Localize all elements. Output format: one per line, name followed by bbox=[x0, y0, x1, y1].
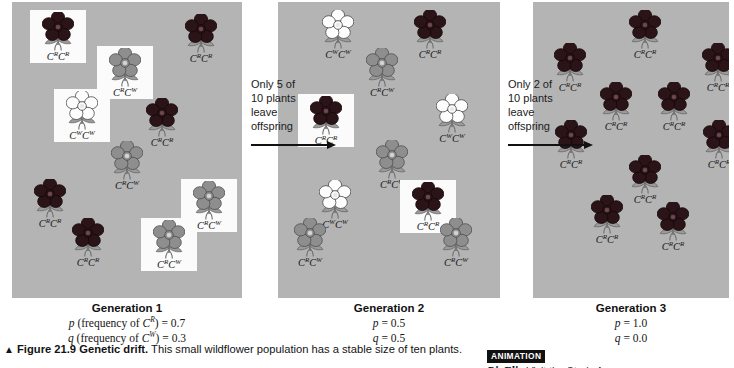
generation-3-title: Generation 3 bbox=[501, 301, 734, 316]
generation-1-freq-p: p (frequency of CR) = 0.7 bbox=[0, 316, 257, 331]
flower-icon-white bbox=[55, 91, 109, 131]
generation-2-title: Generation 2 bbox=[259, 301, 519, 316]
flower-icon-white bbox=[307, 180, 363, 220]
panel-generation-1: CRCRCRCRCRCWCWCWCRCRCRCWCRCRCRCWCRCRCRCW bbox=[12, 2, 242, 298]
flower-icon-dark-red bbox=[617, 10, 673, 50]
arrow-gen2-gen3: Only 2 of 10 plants leave offspring bbox=[508, 78, 600, 149]
flower-icon-dark-red bbox=[31, 12, 85, 52]
animation-badge[interactable]: ANIMATION bbox=[487, 350, 545, 363]
genotype-label: CRCW bbox=[142, 259, 196, 270]
plant-generation-2-10: CRCW bbox=[428, 218, 484, 268]
caption-generation-3: Generation 3 p = 1.0 q = 0.0 bbox=[501, 301, 734, 346]
flower-icon-pink bbox=[142, 220, 196, 260]
caption-triangle-icon: ▲ bbox=[4, 344, 14, 355]
genotype-label: CRCR bbox=[645, 241, 701, 252]
flower-icon-dark-red bbox=[690, 43, 729, 83]
generation-3-freq-p: p = 1.0 bbox=[501, 316, 734, 331]
flower-icon-dark-red bbox=[401, 182, 455, 222]
plant-generation-2-3: CRCW bbox=[354, 48, 410, 98]
flower-icon-dark-red bbox=[646, 82, 702, 122]
generation-2-freq-p: p = 0.5 bbox=[259, 316, 519, 331]
genotype-label: CRCR bbox=[691, 159, 729, 170]
flower-icon-dark-red bbox=[617, 155, 673, 195]
plant-generation-2-9: CRCW bbox=[282, 218, 338, 268]
generation-3-freq-q: q = 0.0 bbox=[501, 331, 734, 346]
figure-caption: ▲ Figure 21.9 Genetic drift. This small … bbox=[4, 342, 474, 357]
flower-icon-dark-red bbox=[691, 120, 729, 160]
flower-icon-dark-red bbox=[134, 98, 190, 138]
plant-generation-3-7: CRCR bbox=[691, 120, 729, 170]
flower-icon-pink bbox=[428, 218, 484, 258]
flower-icon-white bbox=[424, 94, 480, 134]
flower-icon-dark-red bbox=[22, 179, 78, 219]
panel-generation-3: CRCRCRCRCRCRCRCRCRCRCRCRCRCRCRCRCRCRCRCR bbox=[533, 2, 729, 298]
genotype-label: CRCW bbox=[354, 87, 410, 98]
plant-generation-1-1: CRCR bbox=[30, 10, 86, 63]
figure-genetic-drift: CRCRCRCRCRCWCWCWCRCRCRCWCRCRCRCWCRCRCRCW… bbox=[0, 0, 734, 368]
panel-generation-2: CWCWCRCRCRCWCRCRCWCWCRCWCWCWCRCRCRCWCRCW bbox=[278, 2, 500, 298]
genotype-label: CRCR bbox=[579, 234, 635, 245]
genotype-label: CWCW bbox=[55, 130, 109, 141]
flower-icon-pink bbox=[99, 141, 155, 181]
flower-icon-dark-red bbox=[173, 14, 229, 54]
flower-icon-dark-red bbox=[60, 218, 116, 258]
genotype-label: CWCW bbox=[424, 133, 480, 144]
arrow-gen2-gen3-label: Only 2 of 10 plants leave offspring bbox=[508, 78, 600, 133]
plant-generation-3-10: CRCR bbox=[645, 202, 701, 252]
flower-icon-white bbox=[310, 10, 366, 50]
genotype-label: CRCR bbox=[173, 53, 229, 64]
generation-1-title: Generation 1 bbox=[0, 301, 257, 316]
genotype-label: CRCR bbox=[31, 51, 85, 62]
generation-2-plants: CWCWCRCRCRCWCRCRCWCWCRCWCWCWCRCRCRCWCRCW bbox=[278, 2, 500, 298]
figure-number: Figure 21.9 bbox=[17, 343, 76, 355]
genotype-label: CRCW bbox=[282, 257, 338, 268]
flower-icon-pink bbox=[354, 48, 410, 88]
plant-generation-2-5: CWCW bbox=[424, 94, 480, 144]
media-callout: ANIMATION BioFlix Visit the Study Area bbox=[487, 345, 734, 368]
genotype-label: CRCR bbox=[617, 49, 673, 60]
arrow-gen1-gen2-icon bbox=[251, 140, 337, 149]
generation-3-plants: CRCRCRCRCRCRCRCRCRCRCRCRCRCRCRCRCRCRCRCR bbox=[533, 2, 729, 298]
generation-1-plants: CRCRCRCRCRCWCWCWCRCRCRCWCRCRCRCWCRCRCRCW bbox=[12, 2, 242, 298]
flower-icon-dark-red bbox=[402, 10, 458, 50]
plant-generation-1-2: CRCR bbox=[173, 14, 229, 64]
flower-icon-pink bbox=[364, 140, 420, 180]
plant-generation-1-4: CWCW bbox=[54, 89, 110, 142]
genotype-label: CRCW bbox=[99, 180, 155, 191]
arrow-gen1-gen2-label: Only 5 of 10 plants leave offspring bbox=[251, 78, 343, 133]
plant-generation-1-10: CRCW bbox=[141, 218, 197, 271]
caption-generation-1: Generation 1 p (frequency of CR) = 0.7 q… bbox=[0, 301, 257, 346]
plant-generation-2-2: CRCR bbox=[402, 10, 458, 60]
flower-icon-pink bbox=[282, 218, 338, 258]
plant-generation-3-9: CRCR bbox=[579, 195, 635, 245]
figure-body: This small wildflower population has a s… bbox=[151, 343, 462, 355]
flower-icon-dark-red bbox=[542, 43, 598, 83]
genotype-label: CRCR bbox=[543, 159, 599, 170]
flower-icon-pink bbox=[98, 48, 152, 88]
flower-icon-dark-red bbox=[579, 195, 635, 235]
plant-generation-1-9: CRCR bbox=[60, 218, 116, 268]
arrow-gen2-gen3-icon bbox=[508, 140, 594, 149]
plant-generation-3-1: CRCR bbox=[617, 10, 673, 60]
genotype-label: CRCR bbox=[60, 257, 116, 268]
genotype-label: CRCW bbox=[428, 257, 484, 268]
flower-icon-dark-red bbox=[645, 202, 701, 242]
genotype-label: CRCR bbox=[402, 49, 458, 60]
figure-title: Genetic drift. bbox=[79, 343, 148, 355]
plant-generation-1-6: CRCW bbox=[99, 141, 155, 191]
caption-generation-2: Generation 2 p = 0.5 q = 0.5 bbox=[259, 301, 519, 346]
flower-icon-pink bbox=[182, 181, 236, 221]
arrow-gen1-gen2: Only 5 of 10 plants leave offspring bbox=[251, 78, 343, 149]
